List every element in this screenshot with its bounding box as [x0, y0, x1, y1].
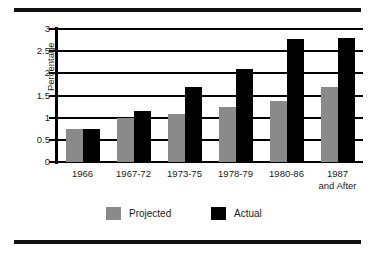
legend-item-actual[interactable]: Actual [211, 207, 262, 220]
bar-actual-4 [287, 39, 304, 162]
plot-area: Percentage [57, 29, 363, 162]
y-tick-label-0.5: 0.5 [37, 135, 50, 144]
bar-projected-0 [66, 129, 83, 162]
gridline-3 [57, 28, 363, 30]
legend-label-projected: Projected [129, 208, 171, 219]
bar-actual-1 [134, 111, 151, 162]
gridline-1 [57, 117, 363, 119]
legend-label-actual: Actual [234, 208, 262, 219]
gridline-1.5 [57, 95, 363, 97]
gridline-0.5 [57, 139, 363, 141]
projected-swatch [106, 207, 121, 220]
bar-actual-0 [83, 129, 100, 162]
chart-figure: 00.511.522.53 Percentage 19661967-721973… [0, 0, 383, 255]
bar-projected-4 [270, 101, 287, 162]
x-tick-label-5: 1987 and After [306, 168, 369, 192]
top-divider-rule [14, 8, 361, 12]
bar-projected-2 [168, 114, 185, 162]
gridline-0 [57, 161, 363, 163]
bar-projected-5 [321, 87, 338, 162]
gridline-2.5 [57, 50, 363, 52]
gridline-2 [57, 72, 363, 74]
y-tick-label-0: 0 [45, 157, 50, 166]
y-tick-label-1: 1 [45, 113, 50, 122]
bar-actual-3 [236, 69, 253, 162]
bar-projected-3 [219, 107, 236, 162]
bottom-divider-rule [14, 240, 361, 244]
legend-item-projected[interactable]: Projected [106, 207, 171, 220]
bar-actual-2 [185, 87, 202, 162]
bar-actual-5 [338, 38, 355, 162]
y-axis-title: Percentage [45, 42, 56, 91]
actual-swatch [211, 207, 226, 220]
y-tick-label-3: 3 [45, 24, 50, 33]
bar-projected-1 [117, 118, 134, 162]
chart-legend: ProjectedActual [0, 207, 383, 225]
y-tick-label-1.5: 1.5 [37, 91, 50, 100]
